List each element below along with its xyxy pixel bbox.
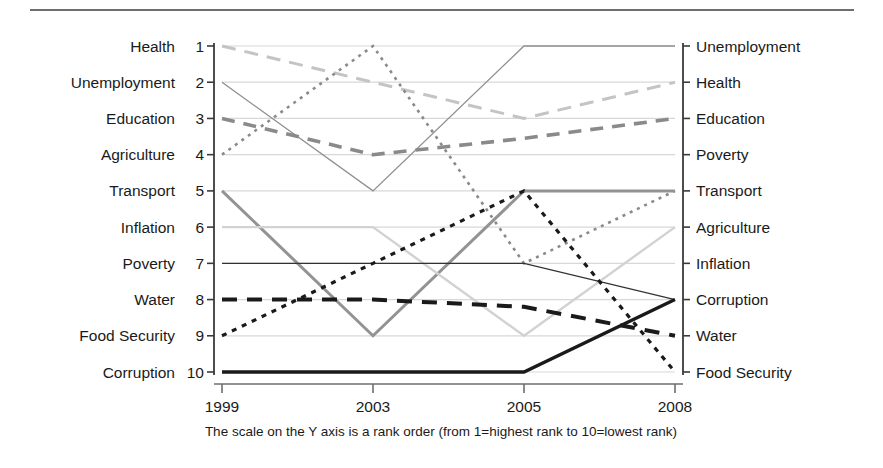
right-label-education: Education	[696, 110, 765, 127]
rank-number-1: 1	[195, 38, 204, 55]
series-line-inflation	[222, 227, 675, 336]
rank-number-9: 9	[195, 327, 204, 344]
right-label-unemployment: Unemployment	[696, 38, 801, 55]
rank-number-2: 2	[195, 74, 204, 91]
left-label-education: Education	[106, 110, 175, 127]
x-label-2005: 2005	[507, 398, 541, 415]
series-line-education	[222, 118, 675, 154]
left-label-transport: Transport	[109, 182, 175, 199]
right-label-transport: Transport	[696, 182, 762, 199]
right-label-corruption: Corruption	[696, 291, 768, 308]
left-label-unemployment: Unemployment	[71, 74, 176, 91]
x-label-1999: 1999	[205, 398, 239, 415]
chart-caption: The scale on the Y axis is a rank order …	[205, 424, 677, 439]
rank-number-6: 6	[195, 219, 204, 236]
rank-number-10: 10	[187, 364, 205, 381]
left-label-health: Health	[130, 38, 175, 55]
plot-lines	[222, 46, 675, 372]
right-axis-labels: UnemploymentHealthEducationPovertyTransp…	[696, 38, 801, 381]
right-label-water: Water	[696, 327, 737, 344]
x-axis-tick-labels: 1999200320052008	[205, 398, 692, 415]
rank-number-7: 7	[195, 255, 204, 272]
x-label-2008: 2008	[658, 398, 692, 415]
right-label-inflation: Inflation	[696, 255, 750, 272]
rank-number-8: 8	[195, 291, 204, 308]
left-label-corruption: Corruption	[103, 364, 175, 381]
left-label-food-security: Food Security	[79, 327, 175, 344]
right-label-food-security: Food Security	[696, 364, 792, 381]
left-axis-labels: HealthUnemploymentEducationAgricultureTr…	[71, 38, 176, 381]
left-label-inflation: Inflation	[121, 219, 175, 236]
left-label-poverty: Poverty	[122, 255, 175, 272]
axes	[214, 43, 683, 384]
left-label-water: Water	[134, 291, 175, 308]
right-label-poverty: Poverty	[696, 146, 749, 163]
x-label-2003: 2003	[356, 398, 390, 415]
rank-number-5: 5	[195, 182, 204, 199]
right-label-agriculture: Agriculture	[696, 219, 770, 236]
rank-number-3: 3	[195, 110, 204, 127]
rank-number-4: 4	[195, 146, 204, 163]
figure-page: HealthUnemploymentEducationAgricultureTr…	[0, 0, 883, 468]
right-label-health: Health	[696, 74, 741, 91]
left-label-agriculture: Agriculture	[101, 146, 175, 163]
rank-order-line-chart: HealthUnemploymentEducationAgricultureTr…	[0, 0, 883, 468]
rank-numbers: 12345678910	[187, 38, 205, 381]
